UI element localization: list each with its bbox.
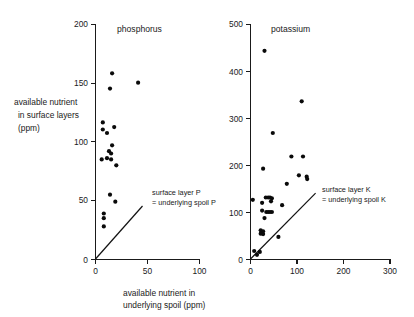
potassium-annotation-line1: surface layer K: [322, 185, 371, 194]
potassium-data-points: [251, 49, 310, 257]
phosphorus-panel-title: phosphorus: [117, 24, 162, 34]
data-point: [262, 49, 266, 53]
ytick-label: 50: [79, 195, 89, 205]
ytick-label: 300: [229, 114, 243, 124]
x-axis-title-line2: underlying spoil (ppm): [123, 300, 206, 310]
potassium-x-ticks: [251, 260, 391, 265]
data-point: [105, 131, 109, 135]
data-point: [261, 232, 265, 236]
ytick-label: 400: [229, 67, 243, 77]
data-point: [109, 151, 113, 155]
phosphorus-data-points: [100, 71, 141, 228]
phosphorus-annotation-line1: surface layer P: [152, 188, 201, 197]
potassium-x-ticklabels: 0 100 200 300: [248, 266, 397, 276]
data-point: [101, 120, 105, 124]
data-point: [102, 224, 106, 228]
xtick-label: 100: [193, 266, 207, 276]
phosphorus-x-ticks: [96, 260, 200, 265]
data-point: [113, 200, 117, 204]
data-point: [136, 81, 140, 85]
data-point: [110, 143, 114, 147]
data-point: [269, 199, 273, 203]
data-point: [100, 157, 104, 161]
data-point: [271, 131, 275, 135]
xtick-label: 100: [290, 266, 304, 276]
data-point: [114, 163, 118, 167]
phosphorus-y-ticklabels: 200 150 100 50 0: [74, 19, 88, 265]
x-axis-title-line1: available nutrient in: [123, 288, 196, 298]
data-point: [102, 216, 106, 220]
y-axis-title-line2: in surface layers: [18, 110, 79, 120]
data-point: [297, 173, 301, 177]
data-point: [301, 154, 305, 158]
xtick-label: 300: [383, 266, 397, 276]
data-point: [276, 235, 280, 239]
ytick-label: 200: [229, 161, 243, 171]
data-point: [112, 125, 116, 129]
data-point: [261, 167, 265, 171]
data-point: [252, 249, 256, 253]
data-point: [280, 203, 284, 207]
data-point: [260, 209, 264, 213]
phosphorus-annotation-line2: = underlying spoil P: [152, 198, 216, 207]
data-point: [101, 127, 105, 131]
ytick-label: 100: [229, 208, 243, 218]
data-point: [251, 198, 255, 202]
xtick-label: 0: [248, 266, 253, 276]
data-point: [285, 182, 289, 186]
potassium-y-ticklabels: 500 400 300 200 100 0: [229, 19, 243, 265]
phosphorus-annotation: surface layer P = underlying spoil P: [152, 188, 216, 207]
potassium-y-ticks: [246, 25, 251, 260]
data-point: [109, 157, 113, 161]
data-point: [305, 177, 309, 181]
y-axis-title-line3: (ppm): [18, 123, 40, 133]
y-axis-title-line1: available nutrient: [14, 97, 78, 107]
data-point: [110, 71, 114, 75]
x-axis-title: available nutrient in underlying spoil (…: [123, 288, 206, 310]
potassium-panel-title: potassium: [271, 24, 310, 34]
data-point: [289, 154, 293, 158]
data-point: [300, 99, 304, 103]
xtick-label: 50: [143, 266, 153, 276]
data-point: [102, 211, 106, 215]
figure-container: 200 150 100 50 0 0 50 100 phosphorus: [0, 0, 414, 317]
ytick-label: 200: [74, 19, 88, 29]
scatter-figure: 200 150 100 50 0 0 50 100 phosphorus: [0, 0, 414, 317]
data-point: [108, 193, 112, 197]
data-point: [270, 210, 274, 214]
panel-phosphorus: 200 150 100 50 0 0 50 100 phosphorus: [74, 19, 216, 276]
data-point: [105, 156, 109, 160]
xtick-label: 200: [337, 266, 351, 276]
ytick-label: 0: [83, 255, 88, 265]
phosphorus-x-ticklabels: 0 50 100: [93, 266, 207, 276]
panel-potassium: 500 400 300 200 100 0 0 100 200 300: [229, 19, 397, 276]
ytick-label: 150: [74, 78, 88, 88]
potassium-annotation-line2: = underlying spoil K: [322, 195, 386, 204]
phosphorus-y-ticks: [91, 25, 96, 260]
xtick-label: 0: [93, 266, 98, 276]
data-point: [108, 87, 112, 91]
potassium-annotation: surface layer K = underlying spoil K: [322, 185, 386, 204]
data-point: [255, 253, 259, 257]
data-point: [262, 216, 266, 220]
y-axis-title: available nutrient in surface layers (pp…: [14, 97, 79, 133]
ytick-label: 100: [74, 137, 88, 147]
ytick-label: 0: [238, 255, 243, 265]
ytick-label: 500: [229, 19, 243, 29]
data-point: [260, 201, 264, 205]
